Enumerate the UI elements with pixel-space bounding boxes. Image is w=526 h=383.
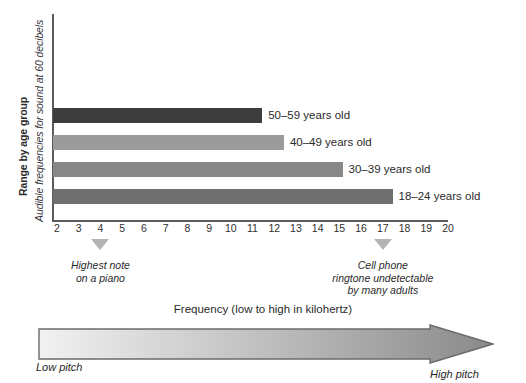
x-tick-10: 10 xyxy=(225,223,237,234)
x-tick-9: 9 xyxy=(206,223,212,234)
annotation-line: ringtone undetectable xyxy=(332,272,433,285)
bar-4 xyxy=(53,189,393,204)
chart-title-primary: Range by age group xyxy=(18,97,29,196)
bar-label: 40–49 years old xyxy=(290,137,372,149)
annotation-note-1: Highest noteon a piano xyxy=(71,259,130,284)
marker-triangle-icon xyxy=(91,239,109,250)
annotation-line: by many adults xyxy=(332,284,433,297)
x-tick-17: 17 xyxy=(377,223,389,234)
bar-label: 50–59 years old xyxy=(268,110,350,122)
low-pitch-label: Low pitch xyxy=(36,361,82,373)
x-tick-7: 7 xyxy=(163,223,169,234)
x-tick-20: 20 xyxy=(442,223,454,234)
x-tick-11: 11 xyxy=(247,223,258,234)
x-tick-19: 19 xyxy=(420,223,432,234)
x-tick-4: 4 xyxy=(98,223,104,234)
x-tick-18: 18 xyxy=(399,223,411,234)
x-axis-tick-labels: 234567891011121314151617181920 xyxy=(52,223,452,237)
x-tick-14: 14 xyxy=(312,223,324,234)
x-tick-6: 6 xyxy=(141,223,147,234)
gradient-arrow-icon xyxy=(38,324,494,364)
x-tick-8: 8 xyxy=(184,223,190,234)
annotation-line: on a piano xyxy=(71,272,130,285)
annotation-note-2: Cell phoneringtone undetectableby many a… xyxy=(332,259,433,297)
frequency-caption: Frequency (low to high in kilohertz) xyxy=(0,303,526,315)
x-tick-2: 2 xyxy=(54,223,60,234)
marker-triangle-icon xyxy=(374,239,392,250)
bar-label: 18–24 years old xyxy=(399,191,481,203)
chart-title-secondary: Audible frequencies for sound at 60 deci… xyxy=(34,20,45,222)
bar-2 xyxy=(53,135,284,150)
x-tick-3: 3 xyxy=(76,223,82,234)
x-tick-16: 16 xyxy=(355,223,367,234)
bar-label: 30–39 years old xyxy=(349,164,431,176)
x-tick-15: 15 xyxy=(334,223,346,234)
x-tick-5: 5 xyxy=(119,223,125,234)
x-tick-13: 13 xyxy=(290,223,302,234)
high-pitch-label: High pitch xyxy=(430,368,479,380)
x-tick-12: 12 xyxy=(268,223,280,234)
pitch-gradient-arrow xyxy=(38,324,494,364)
annotation-line: Cell phone xyxy=(332,259,433,272)
y-axis-title-block: Range by age group Audible frequencies f… xyxy=(0,0,52,225)
bar-3 xyxy=(53,162,343,177)
bar-1 xyxy=(53,108,262,123)
annotation-line: Highest note xyxy=(71,259,130,272)
plot-area: 50–59 years old40–49 years old30–39 year… xyxy=(52,14,448,220)
